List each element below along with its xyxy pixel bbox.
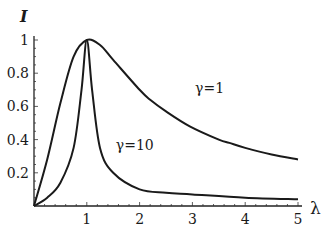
x-axis-label: λ xyxy=(310,198,321,218)
y-tick-label: 1 xyxy=(20,32,29,48)
annotation-gamma-10: γ=10 xyxy=(116,137,154,153)
curve-gamma-10 xyxy=(34,40,298,206)
x-tick-label: 5 xyxy=(294,211,303,227)
x-tick-label: 3 xyxy=(188,211,197,227)
y-tick-label: 0.8 xyxy=(7,65,29,81)
annotation-gamma-1: γ=1 xyxy=(195,80,224,96)
chart: 123450.20.40.60.81Iλγ=1γ=10 xyxy=(0,0,327,230)
labels: 123450.20.40.60.81Iλγ=1γ=10 xyxy=(7,7,321,227)
y-tick-label: 0.6 xyxy=(7,98,29,114)
curves xyxy=(34,39,298,206)
x-tick-label: 2 xyxy=(135,211,144,227)
x-tick-label: 1 xyxy=(82,211,91,227)
x-tick-label: 4 xyxy=(241,211,250,227)
y-axis-label: I xyxy=(19,7,28,26)
y-tick-label: 0.4 xyxy=(7,132,29,148)
axes xyxy=(34,36,302,206)
curve-gamma-1 xyxy=(34,39,298,206)
y-tick-label: 0.2 xyxy=(7,165,29,181)
